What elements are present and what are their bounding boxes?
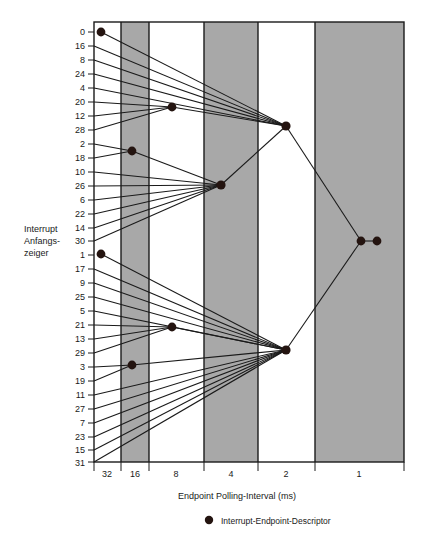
y-tick-label: 3	[80, 362, 85, 372]
node-dot[interactable]	[281, 121, 290, 130]
y-tick-label: 21	[75, 320, 85, 330]
y-tick-label: 9	[80, 278, 85, 288]
legend: Interrupt-Endpoint-Descriptor	[205, 516, 331, 526]
y-tick-label: 0	[80, 27, 85, 37]
band-2	[258, 22, 315, 462]
y-axis-ticks	[88, 32, 94, 462]
node-dot[interactable]	[128, 147, 137, 156]
y-tick-label: 27	[75, 404, 85, 414]
x-tick-label-4: 4	[228, 469, 233, 479]
y-tick-label: 12	[75, 111, 85, 121]
y-axis-title: Interrupt Anfangs- zeiger	[24, 224, 60, 258]
y-tick-label: 7	[80, 418, 85, 428]
usb-interrupt-schedule-diagram: 0 16 8 24 4 20 12 28 2 18 10 26 6 22 14 …	[0, 0, 427, 534]
node-dot[interactable]	[168, 103, 177, 112]
y-tick-label: 13	[75, 334, 85, 344]
x-tick-label-8: 8	[173, 469, 178, 479]
node-dot[interactable]	[128, 361, 137, 370]
y-tick-label: 25	[75, 292, 85, 302]
y-tick-label: 19	[75, 376, 85, 386]
y-tick-label: 22	[75, 209, 85, 219]
y-tick-label: 2	[80, 139, 85, 149]
x-tick-label-2: 2	[283, 469, 288, 479]
y-tick-label: 16	[75, 41, 85, 51]
node-dot[interactable]	[97, 250, 106, 259]
y-axis-title-line1: Interrupt	[24, 224, 58, 234]
y-tick-label: 28	[75, 125, 85, 135]
x-axis-title: Endpoint Polling-Interval (ms)	[178, 491, 296, 501]
y-tick-label: 23	[75, 432, 85, 442]
y-tick-label: 4	[80, 83, 85, 93]
y-tick-label: 14	[75, 223, 85, 233]
y-tick-label: 10	[75, 167, 85, 177]
y-tick-label: 31	[75, 458, 85, 468]
x-tick-label-32: 32	[102, 469, 112, 479]
y-tick-label: 18	[75, 153, 85, 163]
legend-node-dot-icon	[205, 516, 213, 524]
y-axis-labels: 0 16 8 24 4 20 12 28 2 18 10 26 6 22 14 …	[75, 27, 85, 468]
x-axis-labels: 32 16 8 4 2 1	[102, 469, 362, 479]
legend-label: Interrupt-Endpoint-Descriptor	[221, 516, 331, 526]
y-tick-label: 29	[75, 348, 85, 358]
node-dot[interactable]	[357, 237, 366, 246]
y-tick-label: 11	[76, 390, 85, 400]
y-axis-title-line2: Anfangs-	[24, 236, 60, 246]
node-dot[interactable]	[281, 345, 290, 354]
band-32	[94, 22, 121, 462]
y-tick-label: 6	[80, 195, 85, 205]
y-tick-label: 1	[80, 250, 85, 260]
node-dot[interactable]	[168, 323, 177, 332]
x-tick-label-1: 1	[356, 469, 361, 479]
diagram-root: 0 16 8 24 4 20 12 28 2 18 10 26 6 22 14 …	[0, 0, 427, 534]
node-dot[interactable]	[216, 180, 225, 189]
y-axis-title-line3: zeiger	[24, 248, 49, 258]
node-dot[interactable]	[97, 28, 106, 37]
y-tick-label: 5	[80, 306, 85, 316]
y-tick-label: 20	[75, 97, 85, 107]
y-tick-label: 24	[75, 69, 85, 79]
x-tick-label-16: 16	[130, 469, 140, 479]
y-tick-label: 26	[75, 181, 85, 191]
y-tick-label: 15	[75, 445, 85, 455]
y-tick-label: 8	[80, 55, 85, 65]
y-tick-label: 30	[75, 236, 85, 246]
node-dot[interactable]	[373, 237, 382, 246]
y-tick-label: 17	[75, 264, 85, 274]
